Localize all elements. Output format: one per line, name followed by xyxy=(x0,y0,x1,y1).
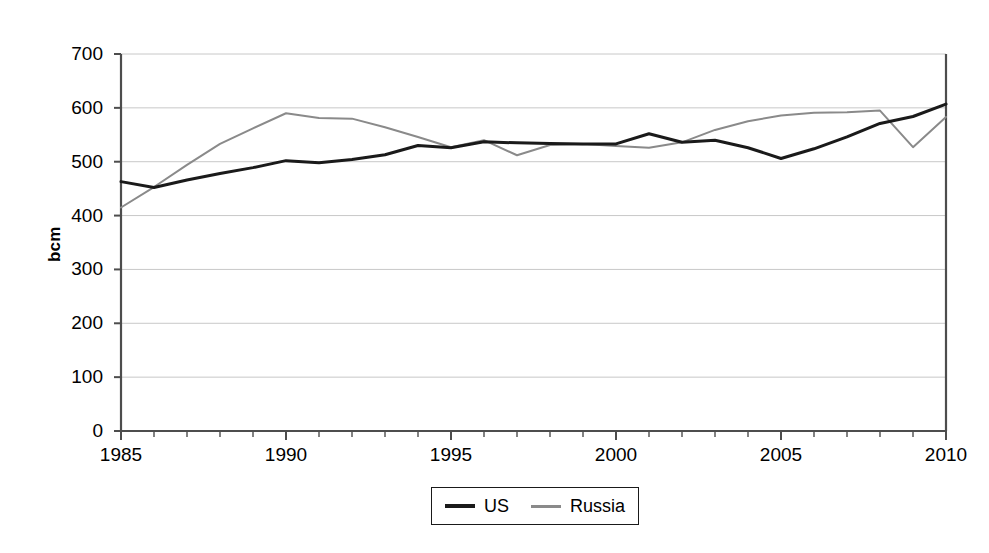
chart-plot-area xyxy=(0,0,989,553)
legend-item-russia: Russia xyxy=(531,497,625,515)
x-tick-label: 1985 xyxy=(86,445,156,464)
gridlines xyxy=(121,54,946,377)
y-tick-label: 600 xyxy=(43,98,103,117)
x-tick-label: 1990 xyxy=(251,445,321,464)
y-tick-label: 500 xyxy=(43,152,103,171)
y-tick-label: 400 xyxy=(43,206,103,225)
legend-item-us: US xyxy=(445,497,509,515)
legend-label-us: US xyxy=(484,497,509,515)
x-minor-ticks xyxy=(121,431,946,440)
x-tick-label: 1995 xyxy=(416,445,486,464)
y-tick-label: 0 xyxy=(43,421,103,440)
series-line-russia xyxy=(121,111,946,208)
y-tick-label: 200 xyxy=(43,313,103,332)
x-tick-label: 2005 xyxy=(746,445,816,464)
legend-label-russia: Russia xyxy=(570,497,625,515)
legend-swatch-us xyxy=(445,504,475,508)
chart-legend: US Russia xyxy=(431,487,639,525)
x-tick-label: 2000 xyxy=(581,445,651,464)
series-line-us xyxy=(121,104,946,187)
y-tick-label: 100 xyxy=(43,367,103,386)
legend-swatch-russia xyxy=(531,505,561,508)
chart-figure: bcm 0100200300400500600700 1985199019952… xyxy=(0,0,989,553)
y-tick-label: 700 xyxy=(43,44,103,63)
x-tick-label: 2010 xyxy=(911,445,981,464)
y-tick-label: 300 xyxy=(43,259,103,278)
